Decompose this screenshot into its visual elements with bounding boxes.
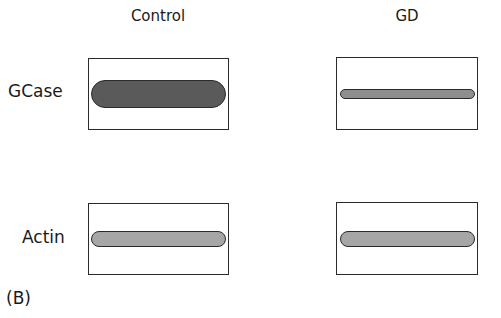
column-label-control: Control — [88, 7, 228, 25]
blot-box-actin-control — [88, 203, 229, 275]
row-label-actin: Actin — [22, 227, 65, 247]
band-gcase-gd — [340, 89, 475, 99]
band-actin-gd — [340, 231, 475, 247]
panel-label: (B) — [6, 288, 31, 308]
row-label-gcase: GCase — [8, 81, 63, 101]
column-label-gd: GD — [337, 7, 477, 25]
blot-box-gcase-control — [88, 58, 229, 130]
band-gcase-control — [91, 80, 226, 108]
blot-box-gcase-gd — [336, 57, 478, 130]
blot-box-actin-gd — [336, 202, 478, 275]
band-actin-control — [91, 231, 226, 247]
